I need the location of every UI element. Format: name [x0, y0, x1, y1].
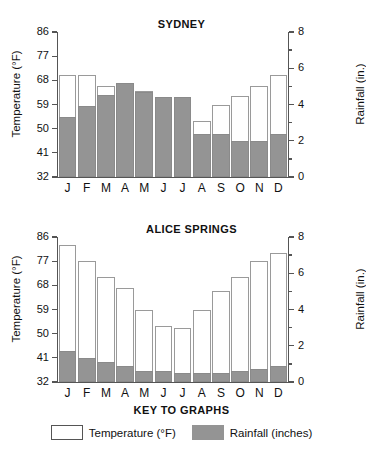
bar-group — [97, 237, 115, 382]
y-axis-tick-label: 50 — [37, 328, 49, 339]
rainfall-bar — [155, 97, 173, 177]
rainfall-bar — [212, 134, 230, 178]
x-axis-month-labels-sydney: JFMAMJJASOND — [58, 180, 288, 196]
y-axis-tick-label: 77 — [37, 255, 49, 266]
rainfall-bar — [270, 366, 288, 382]
bar-group — [97, 32, 115, 177]
y-axis-tick — [52, 176, 57, 177]
y2-axis-tick-label: 8 — [298, 26, 304, 37]
rainfall-bar — [174, 97, 192, 177]
y2-axis-title-rainfall: Rainfall (in.) — [354, 239, 366, 359]
y-axis-tick — [52, 56, 57, 57]
bar-group — [231, 237, 249, 382]
y2-axis-minor-tick — [289, 49, 292, 50]
y-axis-tick — [52, 80, 57, 81]
bar-group — [155, 32, 173, 177]
bar-group — [135, 237, 153, 382]
y2-axis-tick — [289, 309, 294, 310]
bar-group — [250, 32, 268, 177]
chart-title-alice-springs: ALICE SPRINGS — [20, 223, 363, 235]
legend-label-rainfall: Rainfall (inches) — [230, 427, 312, 439]
y2-axis-tick-label: 2 — [298, 340, 304, 351]
y-axis-tick — [52, 381, 57, 382]
bar-group — [193, 32, 211, 177]
y2-axis-tick — [289, 176, 294, 177]
y2-axis-tick — [289, 104, 294, 105]
bar-group — [135, 32, 153, 177]
rainfall-bar — [212, 373, 230, 382]
rainfall-bar — [59, 351, 77, 382]
temperature-bar — [250, 261, 268, 382]
x-axis-tick-label: N — [250, 180, 269, 196]
rainfall-bar — [250, 369, 268, 382]
x-axis-tick-label: M — [96, 385, 115, 401]
y2-axis-minor-tick — [289, 291, 292, 292]
x-axis-tick-label: M — [135, 180, 154, 196]
rainfall-bar — [116, 83, 134, 177]
y-axis-tick-label: 50 — [37, 123, 49, 134]
y2-axis-minor-tick — [289, 122, 292, 123]
bar-group — [78, 237, 96, 382]
rainfall-bar — [155, 371, 173, 382]
x-axis-tick-label: F — [77, 385, 96, 401]
x-axis-tick-label: A — [116, 385, 135, 401]
bar-group — [212, 32, 230, 177]
x-axis-tick-label: A — [192, 180, 211, 196]
y-axis-tick-label: 68 — [37, 279, 49, 290]
y-axis-tick-label: 59 — [37, 99, 49, 110]
y2-axis-tick-label: 2 — [298, 135, 304, 146]
y2-axis-tick — [289, 273, 294, 274]
x-axis-tick-label: M — [96, 180, 115, 196]
y-axis-tick — [52, 357, 57, 358]
chart-panel-sydney: SYDNEY Temperature (°F) Rainfall (in.) 8… — [0, 10, 363, 195]
y2-axis-tick-label: 0 — [298, 376, 304, 387]
y-axis-tick — [52, 152, 57, 153]
rainfall-bar — [231, 371, 249, 382]
y2-axis-tick-label: 0 — [298, 171, 304, 182]
bar-group — [174, 32, 192, 177]
y2-axis-minor-tick — [289, 158, 292, 159]
x-axis-line — [57, 382, 290, 383]
chart-title-sydney: SYDNEY — [0, 18, 363, 30]
x-axis-tick-label: F — [77, 180, 96, 196]
y-axis-tick — [52, 333, 57, 334]
y2-axis-title-rainfall: Rainfall (in.) — [354, 34, 366, 154]
rainfall-bar — [59, 117, 77, 177]
x-axis-line — [57, 177, 290, 178]
x-axis-tick-label: A — [116, 180, 135, 196]
y-axis-title-temperature: Temperature (°F) — [10, 34, 22, 154]
x-axis-tick-label: M — [135, 385, 154, 401]
temperature-bar — [231, 277, 249, 382]
bar-group — [193, 237, 211, 382]
bar-group — [212, 237, 230, 382]
rainfall-bar — [135, 371, 153, 382]
y-axis-tick-label: 32 — [37, 376, 49, 387]
x-axis-tick-label: J — [58, 385, 77, 401]
y2-axis-tick — [289, 31, 294, 32]
rainfall-bar — [78, 106, 96, 177]
x-axis-month-labels-alice-springs: JFMAMJJASOND — [58, 385, 288, 401]
rainfall-bar — [97, 95, 115, 177]
y2-axis-minor-tick — [289, 327, 292, 328]
x-axis-tick-label: O — [231, 385, 250, 401]
rainfall-bar — [193, 134, 211, 178]
rainfall-swatch-icon — [192, 425, 224, 440]
y2-axis-tick — [289, 236, 294, 237]
x-axis-tick-label: D — [269, 385, 288, 401]
y-axis-tick — [52, 261, 57, 262]
y2-axis-tick — [289, 381, 294, 382]
y2-axis-tick-label: 6 — [298, 267, 304, 278]
rainfall-bar — [231, 141, 249, 177]
chart-legend: KEY TO GRAPHS Temperature (°F) Rainfall … — [0, 404, 363, 440]
plot-area-alice-springs: 8677685950413286420 — [58, 237, 288, 382]
bar-group — [270, 237, 288, 382]
x-axis-tick-label: J — [173, 385, 192, 401]
y-axis-tick — [52, 309, 57, 310]
legend-items: Temperature (°F) Rainfall (inches) — [0, 425, 363, 440]
x-axis-tick-label: D — [269, 180, 288, 196]
legend-item-rainfall: Rainfall (inches) — [192, 425, 312, 440]
y-axis-tick — [52, 285, 57, 286]
y-axis-tick — [52, 236, 57, 237]
rainfall-bar — [97, 362, 115, 382]
x-axis-tick-label: A — [192, 385, 211, 401]
